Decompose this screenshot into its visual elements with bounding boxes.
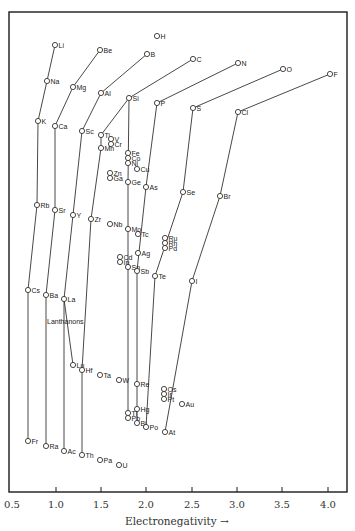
data-point-o: O bbox=[280, 66, 292, 73]
point-marker bbox=[134, 166, 139, 171]
data-point-po: Po bbox=[143, 424, 158, 431]
point-label: Cr bbox=[115, 141, 123, 148]
data-point-y: Y bbox=[70, 212, 81, 219]
point-label: Hf bbox=[86, 367, 93, 374]
data-point-f: F bbox=[327, 71, 337, 78]
point-marker bbox=[79, 128, 84, 133]
link-si-ti bbox=[101, 98, 129, 135]
data-point-ta: Ta bbox=[97, 372, 111, 379]
data-point-sb: Sb bbox=[134, 268, 149, 275]
electronegativity-chart: HLiBeBCNOFNaMgAlSiPSClKCaScTiVCrMnFeCoNi… bbox=[0, 0, 355, 531]
point-label: N bbox=[242, 60, 247, 67]
point-marker bbox=[70, 84, 75, 89]
point-marker bbox=[35, 118, 40, 123]
point-marker bbox=[52, 123, 57, 128]
point-marker bbox=[154, 33, 159, 38]
point-label: Si bbox=[133, 95, 140, 102]
point-marker bbox=[25, 287, 30, 292]
point-marker bbox=[107, 221, 112, 226]
point-label: Se bbox=[187, 189, 196, 196]
data-point-pa: Pa bbox=[97, 457, 112, 464]
point-marker bbox=[143, 424, 148, 429]
point-marker bbox=[107, 175, 112, 180]
point-label: Ga bbox=[114, 175, 123, 182]
data-point-c: C bbox=[190, 56, 201, 63]
data-point-ca: Ca bbox=[52, 123, 67, 130]
point-marker bbox=[135, 250, 140, 255]
point-marker bbox=[125, 150, 130, 155]
point-label: I bbox=[196, 278, 198, 285]
point-label: Al bbox=[105, 90, 112, 97]
point-marker bbox=[134, 381, 139, 386]
point-marker bbox=[61, 448, 66, 453]
data-point-as: As bbox=[143, 184, 158, 191]
point-label: P bbox=[161, 100, 166, 107]
link-mg-ca bbox=[55, 87, 73, 126]
data-point-th: Th bbox=[79, 452, 93, 459]
point-marker bbox=[135, 231, 140, 236]
point-marker bbox=[98, 132, 103, 137]
point-label: Br bbox=[224, 193, 232, 200]
point-marker bbox=[43, 292, 48, 297]
point-label: Re bbox=[141, 381, 150, 388]
point-label: B bbox=[151, 51, 156, 58]
point-marker bbox=[107, 170, 112, 175]
lanthanons-annotation: Lanthanons bbox=[47, 318, 84, 325]
point-marker bbox=[162, 245, 167, 250]
point-label: Sb bbox=[141, 268, 150, 275]
data-point-pd: Pd bbox=[162, 245, 177, 252]
x-tick-label: 2.0 bbox=[138, 499, 154, 510]
point-marker bbox=[235, 109, 240, 114]
point-label: Ge bbox=[132, 179, 141, 186]
point-label: Pa bbox=[104, 457, 113, 464]
point-marker bbox=[235, 60, 240, 65]
point-label: Cs bbox=[32, 287, 41, 294]
point-label: Th bbox=[86, 452, 94, 459]
point-label: F bbox=[334, 71, 338, 78]
point-label: S bbox=[197, 105, 202, 112]
data-point-sc: Sc bbox=[79, 128, 94, 135]
data-point-w: W bbox=[116, 377, 129, 384]
data-point-hf: Hf bbox=[79, 367, 92, 374]
point-label: W bbox=[123, 377, 130, 384]
x-tick-label: 4.0 bbox=[320, 499, 336, 510]
point-marker bbox=[98, 145, 103, 150]
link-si-ge bbox=[128, 98, 129, 182]
data-point-li: Li bbox=[52, 42, 64, 49]
point-label: H bbox=[161, 33, 166, 40]
data-point-cu: Cu bbox=[134, 166, 149, 173]
point-label: Nb bbox=[114, 221, 123, 228]
point-marker bbox=[125, 410, 130, 415]
point-label: Ta bbox=[104, 372, 112, 379]
point-marker bbox=[161, 391, 166, 396]
point-marker bbox=[52, 42, 57, 47]
point-marker bbox=[70, 212, 75, 217]
data-point-mg: Mg bbox=[70, 84, 86, 92]
point-marker bbox=[327, 71, 332, 76]
point-label: Rb bbox=[41, 202, 50, 209]
point-label: Zr bbox=[95, 216, 102, 223]
link-y-la bbox=[64, 215, 73, 299]
point-marker bbox=[179, 401, 184, 406]
link-s-se bbox=[183, 108, 193, 192]
point-label: Pt bbox=[168, 396, 175, 403]
point-marker bbox=[125, 179, 130, 184]
point-marker bbox=[43, 443, 48, 448]
data-point-at: At bbox=[162, 429, 175, 436]
point-marker bbox=[44, 78, 49, 83]
data-point-mn: Mn bbox=[98, 145, 114, 152]
point-marker bbox=[217, 193, 222, 198]
x-tick-label: 3.5 bbox=[274, 499, 290, 510]
point-marker bbox=[134, 420, 139, 425]
point-marker bbox=[134, 268, 139, 273]
point-marker bbox=[79, 452, 84, 457]
link-la-lu bbox=[64, 299, 73, 365]
element-points: HLiBeBCNOFNaMgAlSiPSClKCaScTiVCrMnFeCoNi… bbox=[25, 33, 337, 469]
point-label: K bbox=[42, 118, 47, 125]
data-point-i: I bbox=[189, 278, 197, 285]
point-label: Y bbox=[77, 212, 82, 219]
link-sr-ba bbox=[46, 210, 55, 295]
point-marker bbox=[125, 226, 130, 231]
point-marker bbox=[180, 189, 185, 194]
data-point-fr: Fr bbox=[25, 438, 38, 445]
